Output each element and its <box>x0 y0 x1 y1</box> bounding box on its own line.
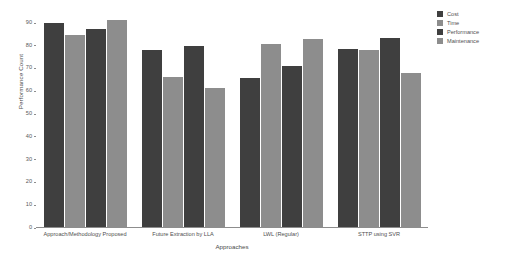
bar-performance[interactable] <box>380 38 400 228</box>
x-axis-category-labels: Approach/Methodology ProposedFuture Extr… <box>36 230 428 242</box>
bar-cost[interactable] <box>240 78 260 228</box>
y-axis-tick-label: 40 <box>26 133 32 139</box>
y-axis-tick-label: 0 <box>29 224 32 230</box>
y-axis-title: Performance Count <box>17 22 24 142</box>
bar-group <box>36 14 134 228</box>
x-axis-category-label: LWL (Regular) <box>232 230 330 242</box>
legend-item[interactable]: Time <box>437 18 513 27</box>
bar-cost[interactable] <box>142 50 162 228</box>
legend-item[interactable]: Performance <box>437 27 513 36</box>
legend-label: Time <box>447 20 459 26</box>
y-axis-tick-label: 70 <box>26 64 32 70</box>
bar-group <box>134 14 232 228</box>
y-axis-tick-label: 20 <box>26 178 32 184</box>
y-axis-tick-label: 30 <box>26 156 32 162</box>
y-axis-tick-label: 60 <box>26 87 32 93</box>
legend-label: Performance <box>447 29 479 35</box>
legend-label: Maintenance <box>447 38 479 44</box>
bar-maintenance[interactable] <box>303 39 323 228</box>
bar-group <box>330 14 428 228</box>
bar-time[interactable] <box>163 77 183 228</box>
legend-swatch-icon <box>437 29 443 35</box>
bar-performance[interactable] <box>282 66 302 228</box>
x-axis-category-label: Approach/Methodology Proposed <box>36 230 134 242</box>
bar-maintenance[interactable] <box>401 73 421 228</box>
y-axis-tick-label: 10 <box>26 201 32 207</box>
x-axis-line <box>36 227 428 228</box>
legend-item[interactable]: Cost <box>437 9 513 18</box>
x-axis-category-label: STTP using SVR <box>330 230 428 242</box>
x-axis-category-label: Future Extraction by LLA <box>134 230 232 242</box>
legend-label: Cost <box>447 11 459 17</box>
plot-area: 0102030405060708090 <box>36 14 428 228</box>
legend-swatch-icon <box>437 38 443 44</box>
chart-legend: CostTimePerformanceMaintenance <box>437 9 513 46</box>
x-axis-title: Approaches <box>36 243 428 250</box>
y-axis-tick-label: 80 <box>26 42 32 48</box>
bar-cost[interactable] <box>338 49 358 228</box>
legend-item[interactable]: Maintenance <box>437 37 513 46</box>
legend-swatch-icon <box>437 11 443 17</box>
bar-chart: Performance Count 0102030405060708090 Ap… <box>0 0 517 272</box>
bar-maintenance[interactable] <box>205 88 225 228</box>
y-axis-tick-label: 90 <box>26 19 32 25</box>
bar-time[interactable] <box>65 35 85 229</box>
y-axis-tick-label: 50 <box>26 110 32 116</box>
bar-time[interactable] <box>359 50 379 228</box>
bar-groups <box>36 14 428 228</box>
bar-performance[interactable] <box>86 29 106 228</box>
bar-time[interactable] <box>261 44 281 228</box>
bar-cost[interactable] <box>44 23 64 228</box>
bar-maintenance[interactable] <box>107 20 127 228</box>
legend-swatch-icon <box>437 20 443 26</box>
bar-performance[interactable] <box>184 46 204 228</box>
bar-group <box>232 14 330 228</box>
